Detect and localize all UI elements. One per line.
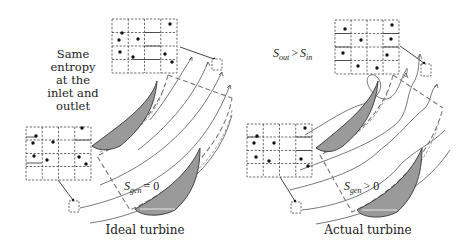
annotation-line-1: Same xyxy=(57,47,90,61)
sgen-positive-label: Sgen> 0 xyxy=(344,179,379,195)
streamlines-actual xyxy=(290,54,450,224)
outlet-leader-ideal xyxy=(180,47,214,59)
outlet-sample-box-ideal xyxy=(212,59,222,70)
annotation-line-2: entropy xyxy=(50,60,96,74)
inlet-leader-ideal xyxy=(58,180,73,200)
inlet-molecule-grid-ideal xyxy=(26,126,91,180)
outlet-molecule-grid-actual xyxy=(335,20,399,74)
outlet-molecule-grid-ideal xyxy=(112,19,177,73)
same-entropy-annotation: Same entropy at the inlet and outlet xyxy=(47,47,99,113)
inlet-sample-box-ideal xyxy=(69,201,79,212)
panel-ideal-turbine: Same entropy at the inlet and outlet xyxy=(26,19,232,237)
caption-actual-turbine: Actual turbine xyxy=(323,223,411,237)
turbine-entropy-diagram: Same entropy at the inlet and outlet xyxy=(0,0,465,248)
caption-ideal-turbine: Ideal turbine xyxy=(106,223,185,237)
blade-upper-actual xyxy=(316,81,378,152)
annotation-line-4: inlet and xyxy=(47,86,99,100)
inlet-sample-box-actual xyxy=(291,202,301,213)
annotation-line-3: at the xyxy=(56,73,90,87)
blade-upper-ideal xyxy=(92,81,157,150)
sout-gt-sin-label: Sout>Sin xyxy=(273,46,312,62)
outlet-sample-box-actual xyxy=(421,64,431,76)
annotation-line-5: outlet xyxy=(56,99,90,113)
panel-actual-turbine: Sout>Sin Sgen> 0 xyxy=(247,20,450,237)
